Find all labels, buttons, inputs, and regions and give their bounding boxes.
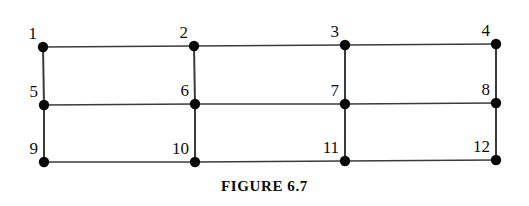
graph-edge	[44, 104, 195, 105]
vertex-label-4: 4	[482, 22, 491, 39]
graph-edge	[345, 44, 496, 45]
figure-container: 123456789101112 FIGURE 6.7	[0, 0, 529, 206]
graph-vertex	[340, 40, 350, 50]
graph-vertex	[491, 98, 501, 108]
vertex-label-9: 9	[30, 140, 39, 157]
vertex-label-6: 6	[181, 82, 190, 99]
figure-caption: FIGURE 6.7	[0, 178, 529, 195]
graph-edge	[194, 46, 195, 104]
graph-edge	[195, 161, 345, 162]
vertex-label-12: 12	[473, 138, 490, 155]
graph-edge	[345, 103, 496, 104]
graph-edge	[43, 46, 194, 47]
vertex-label-8: 8	[482, 81, 491, 98]
vertex-label-10: 10	[172, 140, 189, 157]
edge-layer	[43, 44, 496, 162]
graph-vertex	[38, 42, 48, 52]
graph-vertex	[491, 39, 501, 49]
graph-vertex	[39, 157, 49, 167]
graph-edge	[345, 160, 496, 161]
vertex-label-2: 2	[180, 24, 189, 41]
graph-vertex	[189, 41, 199, 51]
graph-vertex	[39, 100, 49, 110]
vertex-label-1: 1	[29, 25, 38, 42]
graph-edge	[43, 47, 44, 105]
graph-edge	[194, 45, 345, 46]
graph-vertex	[190, 157, 200, 167]
graph-diagram	[0, 0, 529, 206]
vertex-label-7: 7	[331, 82, 340, 99]
vertex-label-5: 5	[30, 83, 39, 100]
graph-vertex	[340, 99, 350, 109]
graph-vertex	[340, 156, 350, 166]
vertex-label-11: 11	[323, 139, 339, 156]
vertex-label-3: 3	[331, 23, 340, 40]
graph-vertex	[190, 99, 200, 109]
graph-vertex	[491, 155, 501, 165]
